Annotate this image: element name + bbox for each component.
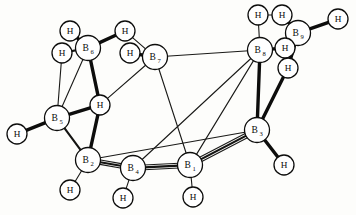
atom-label-h15: H	[335, 14, 342, 24]
atom-label-h14: H	[279, 10, 286, 20]
atom-h6: H	[7, 124, 27, 144]
atom-label-b1: B	[184, 160, 190, 170]
bond-h2-b5	[58, 61, 62, 107]
atom-label-h1: H	[67, 26, 74, 36]
bond-h5-b2	[90, 113, 98, 149]
atom-label-h7: H	[67, 185, 74, 195]
atom-h2: H	[52, 43, 72, 63]
atom-subscript-b2: 2	[90, 160, 93, 167]
atom-h12: H	[275, 38, 295, 58]
bond-b3-h11	[262, 76, 284, 121]
atom-label-b2: B	[82, 155, 88, 165]
atom-label-h11: H	[285, 63, 292, 73]
bond-b6-h3	[98, 35, 117, 44]
atom-label-b8: B	[254, 45, 260, 55]
atom-label-b4: B	[127, 163, 133, 173]
bond-b5-h5	[68, 107, 92, 114]
double-bond-b4-b1	[144, 163, 179, 165]
atom-subscript-b1: 1	[192, 165, 195, 172]
atom-h13: H	[248, 5, 268, 25]
bond-b3-b8	[257, 61, 259, 119]
bond-b8-b1	[196, 59, 255, 155]
atom-b2: B2	[76, 148, 101, 173]
atom-layer: B1B2B3B4B5B6B7B8B9HHHHHHHHHHHHHHH	[7, 5, 348, 208]
bond-b9-h15	[308, 22, 330, 30]
bond-b4-b1	[144, 166, 179, 168]
bond-b7-b8	[166, 51, 249, 57]
atom-label-h12: H	[282, 43, 289, 53]
atom-h10: H	[274, 155, 294, 175]
atom-label-h13: H	[255, 10, 262, 20]
bond-b7-h5	[106, 64, 146, 99]
atom-h15: H	[328, 9, 348, 29]
atom-b5: B5	[45, 106, 70, 131]
atom-label-h9: H	[190, 192, 197, 202]
bond-b8-b4	[141, 57, 252, 160]
bond-b2-h7	[74, 169, 82, 182]
atom-label-b6: B	[82, 43, 88, 53]
bond-b6-b5	[61, 58, 83, 108]
atom-h14: H	[272, 5, 292, 25]
atom-b8: B8	[248, 38, 273, 63]
molecule-diagram: B1B2B3B4B5B6B7B8B9HHHHHHHHHHHHHHH	[0, 0, 356, 215]
atom-b1: B1	[178, 153, 203, 178]
atom-label-h3: H	[122, 26, 129, 36]
atom-b4: B4	[121, 156, 146, 181]
atom-b6: B6	[76, 36, 101, 61]
atom-label-h2: H	[59, 48, 66, 58]
atom-h7: H	[60, 180, 80, 200]
bond-b8-h13	[258, 23, 259, 39]
bond-b7-b1	[158, 67, 186, 154]
atom-label-b5: B	[51, 113, 57, 123]
atom-h9: H	[183, 187, 203, 207]
bond-b3-h10	[264, 139, 279, 159]
atom-label-h5: H	[97, 100, 104, 110]
atom-h11: H	[278, 58, 298, 78]
atom-h3: H	[115, 21, 135, 41]
atom-label-h8: H	[120, 193, 127, 203]
atom-label-b7: B	[149, 52, 155, 62]
atom-h8: H	[113, 188, 133, 208]
bond-b2-b4	[99, 162, 122, 166]
atom-label-h6: H	[14, 129, 21, 139]
bond-b6-h5	[90, 59, 98, 97]
atom-label-b3: B	[251, 125, 257, 135]
bond-b5-b2	[64, 127, 82, 151]
atom-label-b9: B	[292, 28, 298, 38]
molecule-canvas: B1B2B3B4B5B6B7B8B9HHHHHHHHHHHHHHH	[0, 0, 356, 215]
atom-h1: H	[60, 21, 80, 41]
atom-h5: H	[90, 95, 110, 115]
bond-b5-h6	[25, 122, 47, 131]
atom-b7: B7	[143, 45, 168, 70]
atom-label-h10: H	[281, 160, 288, 170]
atom-h4: H	[120, 43, 140, 63]
atom-b3: B3	[245, 118, 270, 143]
atom-label-h4: H	[127, 48, 134, 58]
double-bond-b4-b1	[144, 168, 179, 170]
double-bond-b1-b3	[201, 137, 249, 162]
